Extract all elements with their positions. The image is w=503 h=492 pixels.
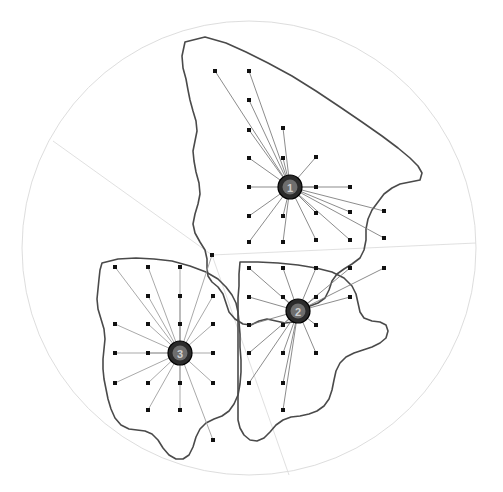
demand-point-34 bbox=[281, 351, 285, 355]
demand-point-44 bbox=[146, 294, 150, 298]
facility-location-diagram: 123 bbox=[0, 0, 503, 492]
demand-point-2 bbox=[247, 98, 251, 102]
demand-point-6 bbox=[281, 156, 285, 160]
demand-point-3 bbox=[247, 128, 251, 132]
demand-point-17 bbox=[281, 240, 285, 244]
demand-point-43 bbox=[211, 294, 215, 298]
spoke-point-39-to-hub-3 bbox=[180, 255, 212, 353]
demand-point-38 bbox=[281, 408, 285, 412]
demand-point-56 bbox=[211, 381, 215, 385]
demand-point-10 bbox=[348, 185, 352, 189]
demand-point-32 bbox=[314, 323, 318, 327]
demand-point-51 bbox=[146, 351, 150, 355]
demand-point-33 bbox=[247, 351, 251, 355]
demand-point-5 bbox=[247, 156, 251, 160]
demand-point-8 bbox=[247, 185, 251, 189]
demand-point-59 bbox=[211, 438, 215, 442]
spoke-point-40-to-hub-3 bbox=[115, 267, 180, 353]
spoke-point-41-to-hub-3 bbox=[148, 267, 180, 353]
demand-point-30 bbox=[247, 323, 251, 327]
demand-point-27 bbox=[281, 295, 285, 299]
demand-point-1 bbox=[247, 69, 251, 73]
region-outline-southeast bbox=[238, 262, 388, 441]
demand-point-25 bbox=[382, 266, 386, 270]
demand-point-37 bbox=[247, 381, 251, 385]
demand-point-26 bbox=[247, 295, 251, 299]
demand-point-48 bbox=[178, 322, 182, 326]
demand-point-22 bbox=[281, 266, 285, 270]
demand-point-14 bbox=[348, 210, 352, 214]
demand-point-58 bbox=[178, 408, 182, 412]
spoke-point-59-to-hub-3 bbox=[180, 353, 213, 440]
demand-point-45 bbox=[178, 294, 182, 298]
demand-point-49 bbox=[211, 322, 215, 326]
partition-edges-layer bbox=[53, 141, 476, 475]
hub-label-2: 2 bbox=[295, 306, 301, 318]
spoke-point-0-to-hub-1 bbox=[215, 71, 290, 187]
demand-point-42 bbox=[178, 265, 182, 269]
demand-point-19 bbox=[348, 238, 352, 242]
demand-point-36 bbox=[281, 381, 285, 385]
demand-point-53 bbox=[113, 381, 117, 385]
demand-point-21 bbox=[247, 266, 251, 270]
edge-northwest bbox=[53, 141, 212, 255]
demand-point-23 bbox=[314, 266, 318, 270]
demand-point-4 bbox=[281, 126, 285, 130]
hub-marker-3[interactable]: 3 bbox=[168, 341, 192, 365]
demand-point-46 bbox=[113, 322, 117, 326]
spoke-point-38-to-hub-2 bbox=[283, 311, 298, 410]
demand-point-57 bbox=[146, 408, 150, 412]
demand-point-31 bbox=[281, 323, 285, 327]
hub-label-1: 1 bbox=[287, 182, 293, 194]
demand-point-16 bbox=[247, 240, 251, 244]
demand-point-55 bbox=[178, 381, 182, 385]
edge-east bbox=[212, 243, 476, 255]
demand-point-12 bbox=[281, 214, 285, 218]
demand-point-13 bbox=[314, 211, 318, 215]
demand-point-41 bbox=[146, 265, 150, 269]
demand-point-0 bbox=[213, 69, 217, 73]
spoke-point-2-to-hub-1 bbox=[249, 100, 290, 187]
boundary-circle bbox=[22, 21, 476, 475]
hub-marker-1[interactable]: 1 bbox=[278, 175, 302, 199]
demand-point-39 bbox=[210, 253, 214, 257]
edge-south bbox=[212, 255, 289, 475]
region-outline-north bbox=[182, 37, 422, 325]
demand-point-28 bbox=[314, 295, 318, 299]
demand-point-54 bbox=[146, 381, 150, 385]
demand-point-11 bbox=[247, 214, 251, 218]
hub-label-3: 3 bbox=[177, 348, 183, 360]
demand-point-9 bbox=[314, 185, 318, 189]
demand-point-47 bbox=[146, 322, 150, 326]
demand-point-15 bbox=[382, 209, 386, 213]
demand-point-7 bbox=[314, 155, 318, 159]
demand-point-18 bbox=[314, 238, 318, 242]
hub-marker-2[interactable]: 2 bbox=[286, 299, 310, 323]
spoke-point-25-to-hub-2 bbox=[298, 268, 384, 311]
demand-point-40 bbox=[113, 265, 117, 269]
demand-point-29 bbox=[348, 295, 352, 299]
demand-point-20 bbox=[382, 236, 386, 240]
demand-point-50 bbox=[113, 351, 117, 355]
spoke-point-20-to-hub-1 bbox=[290, 187, 384, 238]
demand-point-35 bbox=[314, 351, 318, 355]
demand-point-52 bbox=[211, 351, 215, 355]
demand-point-24 bbox=[348, 266, 352, 270]
